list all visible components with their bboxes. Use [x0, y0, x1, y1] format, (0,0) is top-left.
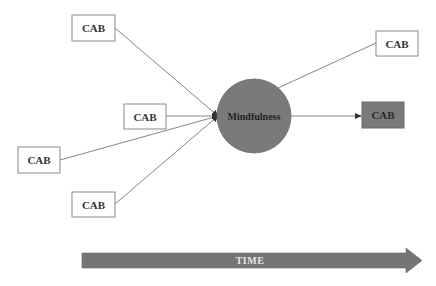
input-box-3-label: CAB: [27, 154, 51, 166]
output-box-2-filled: CAB: [362, 102, 404, 128]
input-box-2-label: CAB: [133, 111, 157, 123]
output-box-1-label: CAB: [385, 38, 409, 50]
input-box-1-label: CAB: [82, 22, 106, 34]
input-box-2: CAB: [124, 104, 166, 129]
input-box-4: CAB: [72, 192, 115, 217]
connector-output-1: [278, 43, 376, 88]
diagram-canvas: CAB CAB CAB CAB Mindfulness CAB CAB TIME: [0, 0, 436, 286]
time-label: TIME: [236, 255, 265, 266]
connector-input-1: [115, 28, 218, 116]
mindfulness-label: Mindfulness: [228, 111, 281, 122]
output-box-2-label: CAB: [371, 109, 395, 121]
input-box-3: CAB: [18, 147, 60, 173]
input-box-1: CAB: [72, 15, 115, 41]
input-box-4-label: CAB: [82, 199, 106, 211]
output-box-1: CAB: [376, 31, 418, 56]
mindfulness-node: Mindfulness: [217, 79, 291, 153]
time-arrow: TIME: [82, 248, 422, 273]
